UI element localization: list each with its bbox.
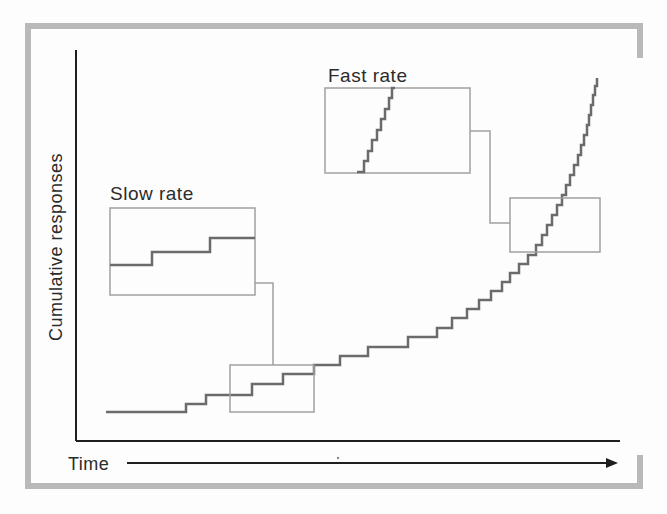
fast-rate-label: Fast rate xyxy=(328,65,407,86)
cumulative-record-curve xyxy=(106,78,597,412)
slow-rate-inset-curve xyxy=(110,238,255,265)
x-axis-label: Time xyxy=(68,454,109,474)
time-arrow-head-icon xyxy=(606,458,618,468)
fast-rate-inset-box xyxy=(325,88,470,173)
slow-rate-connector-line xyxy=(255,283,273,365)
outer-frame-border xyxy=(28,26,640,486)
fast-rate-inset-curve xyxy=(357,88,395,172)
slow-rate-target-box xyxy=(230,365,314,412)
fast-rate-connector-line xyxy=(470,131,510,223)
scan-speck-dot xyxy=(337,457,339,459)
slow-rate-label: Slow rate xyxy=(110,183,194,204)
fast-rate-target-box xyxy=(510,198,600,252)
figure-canvas: Cumulative responses Time Slow rate Fast… xyxy=(0,0,667,514)
textbook-figure: Cumulative responses Time Slow rate Fast… xyxy=(0,0,667,514)
y-axis-label: Cumulative responses xyxy=(46,153,66,341)
